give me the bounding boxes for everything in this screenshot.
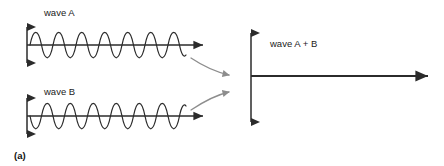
connector-arrows (191, 58, 229, 110)
panel-caption: (a) (14, 150, 26, 161)
wave-b-label: wave B (43, 86, 75, 97)
wave-sum-panel: wave A + B (251, 33, 428, 122)
wave-b-panel: wave B (27, 86, 203, 134)
wave-sum-label: wave A + B (269, 38, 317, 49)
wave-a-label: wave A (43, 7, 75, 18)
interference-figure: wave A wave B wave A + B (a) (0, 0, 444, 166)
connector-arrow-from-wave-a (191, 58, 229, 75)
wave-a-panel: wave A (27, 7, 203, 63)
connector-arrow-from-wave-b (191, 92, 229, 110)
